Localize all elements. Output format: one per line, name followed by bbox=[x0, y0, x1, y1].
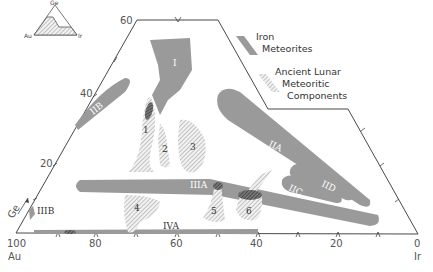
legend-iron-swatch bbox=[236, 36, 258, 55]
component-4 bbox=[124, 195, 160, 233]
region-IIB bbox=[75, 78, 130, 130]
legend-lunar-line3: Components bbox=[287, 90, 347, 101]
legend-lunar-line1: Ancient Lunar bbox=[275, 66, 341, 77]
inset-triangle: Ge Au Ir bbox=[24, 0, 83, 39]
inset-ge-label: Ge bbox=[50, 0, 59, 6]
label-5: 5 bbox=[211, 206, 217, 216]
ge-arrow-label: Ge bbox=[5, 203, 21, 221]
legend: Iron Meteorites Ancient Lunar Meteoritic… bbox=[236, 31, 347, 101]
bottom-axis-20: 20 bbox=[330, 238, 343, 249]
label-IIIB: IIIB bbox=[37, 206, 55, 216]
label-IVA: IVA bbox=[163, 221, 179, 231]
bottom-axis-80: 80 bbox=[89, 238, 102, 249]
bottom-axis-40: 40 bbox=[250, 238, 263, 249]
legend-iron-line2: Meteorites bbox=[262, 43, 313, 54]
region-I bbox=[150, 38, 192, 115]
label-IIIA: IIIA bbox=[190, 180, 208, 190]
left-axis-20: 20 bbox=[40, 158, 53, 169]
legend-iron-line1: Iron bbox=[256, 31, 274, 42]
label-4: 4 bbox=[134, 203, 140, 213]
vertex-ir-label: Ir bbox=[414, 251, 422, 262]
label-3: 3 bbox=[190, 142, 196, 152]
left-axis-40: 40 bbox=[80, 88, 93, 99]
inset-au-label: Au bbox=[24, 32, 32, 39]
bottom-axis-0: 0 bbox=[414, 238, 420, 249]
vertex-au-label: Au bbox=[8, 251, 21, 262]
ternary-diagram: Ge Au Ir bbox=[0, 0, 433, 272]
left-axis-60: 60 bbox=[120, 15, 133, 26]
label-6: 6 bbox=[246, 206, 252, 216]
label-1: 1 bbox=[143, 125, 149, 135]
inset-ir-label: Ir bbox=[78, 32, 83, 39]
legend-lunar-line2: Meteoritic bbox=[282, 78, 330, 89]
bottom-axis-100: 100 bbox=[7, 238, 26, 249]
label-I: I bbox=[173, 58, 177, 68]
bottom-axis-60: 60 bbox=[170, 238, 183, 249]
label-2: 2 bbox=[162, 144, 168, 154]
